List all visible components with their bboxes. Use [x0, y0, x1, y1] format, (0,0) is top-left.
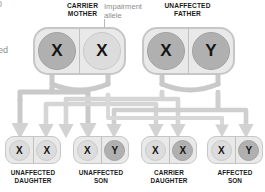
allele-unaffected-daughter-1: X: [9, 140, 30, 161]
allele-cell: X: [144, 29, 188, 73]
label-carrier-daughter: CARRIER DAUGHTER: [136, 169, 202, 185]
allele-cell: X: [142, 137, 169, 163]
allele-affected-son-1: X: [211, 140, 232, 161]
allele-unaffected-father-1: X: [147, 32, 185, 70]
allele-unaffected-father-2: Y: [192, 32, 230, 70]
allele-cell: X: [35, 29, 79, 73]
label-unaffected-daughter: UNAFFECTED DAUGHTER: [0, 169, 66, 185]
chromosome-pair-affected-son: X Y: [207, 136, 263, 164]
label-impairment-allele: Impairment allele: [104, 2, 154, 21]
allele-cell: Y: [235, 137, 263, 163]
label-carrier-mother: CARRIER MOTHER: [55, 2, 110, 18]
allele-unaffected-son-2: Y: [104, 140, 125, 161]
allele-carrier-mother-2: X: [83, 32, 121, 70]
chromosome-pair-unaffected-son: X Y: [73, 136, 129, 164]
allele-cell: X: [79, 29, 124, 73]
label-unaffected-son: UNAFFECTED SON: [68, 169, 134, 185]
allele-cell: X: [208, 137, 235, 163]
allele-cell: X: [33, 137, 61, 163]
allele-carrier-mother-1: X: [38, 32, 76, 70]
chromosome-pair-carrier-daughter: X X: [141, 136, 197, 164]
allele-carrier-daughter-1: X: [145, 140, 166, 161]
chromosome-pair-carrier-mother: X X: [33, 27, 126, 75]
allele-cell: Y: [101, 137, 129, 163]
allele-carrier-daughter-2: X: [172, 140, 193, 161]
allele-cell: X: [74, 137, 101, 163]
allele-unaffected-son-1: X: [77, 140, 98, 161]
chromosome-pair-unaffected-father: X Y: [142, 27, 235, 75]
allele-cell: Y: [188, 29, 233, 73]
allele-unaffected-daughter-2: X: [36, 140, 57, 161]
label-unaffected-father: UNAFFECTED FATHER: [155, 2, 220, 18]
allele-affected-son-2: Y: [238, 140, 259, 161]
inheritance-diagram: 0 red: [0, 0, 265, 192]
label-affected-son: AFFECTED SON: [202, 169, 265, 185]
chromosome-pair-unaffected-daughter: X X: [5, 136, 61, 164]
allele-cell: X: [6, 137, 33, 163]
allele-cell: X: [169, 137, 197, 163]
